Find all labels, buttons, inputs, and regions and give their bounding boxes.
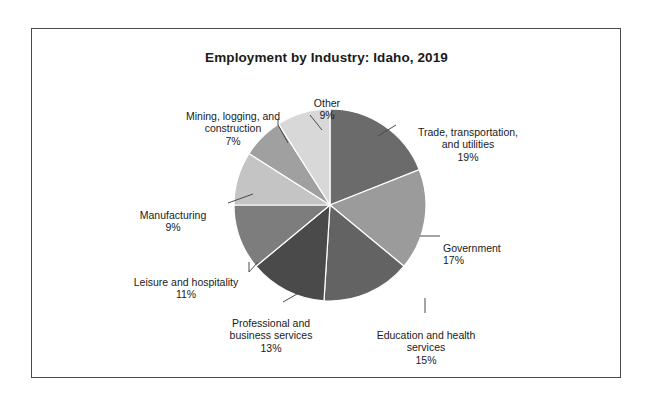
- slice-label-trade-name: Trade, transportation, and utilities: [418, 126, 518, 151]
- slice-label-leisure-pct: 11%: [116, 288, 256, 301]
- slice-label-mining: Mining, logging, and construction 7%: [163, 97, 303, 160]
- slice-label-education: Education and health services 15%: [356, 316, 496, 379]
- slice-label-education-name: Education and health services: [377, 329, 476, 354]
- slice-label-manufacturing-pct: 9%: [118, 221, 228, 234]
- chart-title: Employment by Industry: Idaho, 2019: [0, 50, 653, 65]
- slice-label-mining-pct: 7%: [163, 135, 303, 148]
- slice-label-education-pct: 15%: [356, 354, 496, 367]
- slice-label-other: Other 9%: [297, 84, 357, 134]
- pie-chart-figure: Employment by Industry: Idaho, 2019 Trad…: [0, 0, 653, 400]
- slice-label-government: Government 17%: [443, 229, 553, 279]
- slice-label-professional-business-name: Professional and business services: [230, 317, 313, 342]
- slice-label-manufacturing-name: Manufacturing: [140, 209, 207, 221]
- slice-label-other-name: Other: [314, 97, 340, 109]
- slice-label-leisure: Leisure and hospitality 11%: [116, 263, 256, 313]
- slice-label-trade-pct: 19%: [404, 151, 532, 164]
- slice-label-other-pct: 9%: [297, 109, 357, 122]
- slice-label-trade: Trade, transportation, and utilities 19%: [404, 113, 532, 176]
- slice-label-professional-business: Professional and business services 13%: [200, 304, 342, 367]
- slice-label-government-name: Government: [443, 242, 501, 254]
- slice-label-manufacturing: Manufacturing 9%: [118, 196, 228, 246]
- slice-label-leisure-name: Leisure and hospitality: [134, 276, 238, 288]
- slice-label-professional-business-pct: 13%: [200, 342, 342, 355]
- slice-label-mining-name: Mining, logging, and construction: [186, 110, 280, 135]
- slice-label-government-pct: 17%: [443, 254, 553, 267]
